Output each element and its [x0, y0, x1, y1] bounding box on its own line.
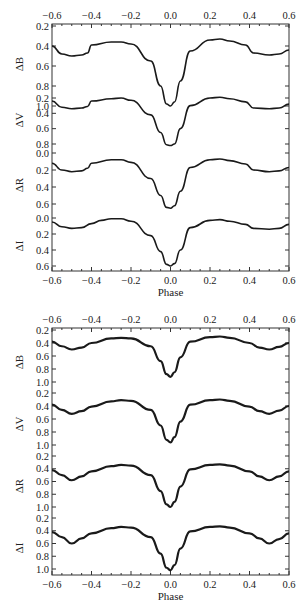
x-tick-label-bottom: −0.6: [42, 275, 61, 286]
x-tick-label-bottom: 0.0: [164, 275, 177, 286]
x-tick-label-bottom: 0.2: [203, 579, 216, 590]
y-tick-label: 1.0: [36, 502, 49, 513]
y-tick-label: 0.6: [36, 61, 49, 72]
x-tick-label-bottom: −0.2: [121, 275, 140, 286]
y-tick-label: 0.8: [36, 81, 49, 92]
y-tick-label: 0.4: [36, 525, 50, 536]
x-tick-label-bottom: −0.2: [121, 579, 140, 590]
x-axis-label: Phase: [158, 590, 184, 602]
y-tick-label: 0.2: [36, 21, 49, 32]
light-curve-delta-V: [52, 97, 289, 145]
y-axis-label-delta-I: ΔI: [13, 240, 25, 251]
light-curve-figure: −0.6−0.6−0.4−0.4−0.2−0.20.00.00.20.20.40…: [0, 0, 308, 610]
y-tick-label: 0.8: [36, 551, 49, 562]
y-axis-label-delta-V: ΔV: [13, 112, 25, 127]
light-curve-delta-I: [52, 219, 289, 266]
x-tick-label-bottom: −0.4: [82, 579, 102, 590]
y-tick-label: 0.0: [36, 148, 49, 159]
x-tick-label-bottom: 0.0: [164, 579, 177, 590]
y-tick-label: 0.2: [36, 388, 49, 399]
y-tick-label: 0.2: [36, 229, 49, 240]
y-axis-label-delta-B: ΔB: [13, 57, 25, 71]
x-tick-label-top: 0.4: [243, 314, 257, 325]
y-tick-label: 0.6: [36, 414, 49, 425]
x-tick-label-top: 0.0: [164, 314, 177, 325]
x-tick-label-top: 0.0: [164, 10, 177, 21]
x-tick-label-top: 0.4: [243, 10, 257, 21]
x-tick-label-bottom: 0.4: [243, 579, 257, 590]
x-tick-label-top: 0.2: [203, 314, 216, 325]
y-axis-label-delta-I: ΔI: [13, 542, 25, 553]
x-tick-label-bottom: −0.6: [42, 579, 61, 590]
x-tick-label-top: −0.2: [121, 314, 140, 325]
y-axis-label-delta-R: ΔR: [13, 478, 25, 493]
y-tick-label: 0.4: [36, 108, 50, 119]
y-tick-label: 0.6: [36, 476, 49, 487]
x-tick-label-bottom: 0.4: [243, 275, 257, 286]
x-tick-label-top: −0.4: [82, 10, 102, 21]
light-curve-delta-B: [52, 337, 289, 377]
panel-1: −0.6−0.6−0.4−0.4−0.2−0.20.00.00.20.20.40…: [13, 10, 296, 298]
x-tick-label-top: −0.2: [121, 10, 140, 21]
plot-frame: [52, 24, 289, 271]
x-tick-label-bottom: 0.6: [282, 275, 295, 286]
panel-2: −0.6−0.6−0.4−0.4−0.2−0.20.00.00.20.20.40…: [13, 314, 296, 602]
y-tick-label: 0.4: [36, 41, 50, 52]
y-tick-label: 0.6: [36, 123, 49, 134]
y-tick-label: 0.6: [36, 261, 49, 272]
y-tick-label: 0.8: [36, 364, 49, 375]
x-tick-label-top: 0.2: [203, 10, 216, 21]
y-tick-label: 0.6: [36, 538, 49, 549]
y-tick-label: 0.4: [36, 245, 50, 256]
x-axis-label: Phase: [158, 286, 184, 298]
x-tick-label-top: −0.6: [42, 10, 61, 21]
y-tick-label: 0.2: [36, 165, 49, 176]
x-tick-label-bottom: −0.4: [82, 275, 102, 286]
y-tick-label: 1.0: [36, 564, 49, 575]
y-tick-label: 0.6: [36, 199, 49, 210]
y-tick-label: 0.8: [36, 427, 49, 438]
y-tick-label: 0.4: [36, 401, 50, 412]
y-tick-label: 0.4: [36, 182, 50, 193]
y-tick-label: 1.0: [36, 377, 49, 388]
y-tick-label: 0.6: [36, 351, 49, 362]
y-tick-label: 0.2: [36, 93, 49, 104]
light-curve-delta-I: [52, 526, 289, 570]
y-tick-label: 0.4: [36, 338, 50, 349]
light-curve-delta-R: [52, 159, 289, 208]
light-curve-delta-R: [52, 464, 289, 507]
y-tick-label: 0.2: [36, 325, 49, 336]
x-tick-label-top: 0.6: [282, 314, 295, 325]
plot-frame: [52, 328, 289, 575]
x-tick-label-bottom: 0.6: [282, 579, 295, 590]
y-axis-label-delta-V: ΔV: [13, 416, 25, 431]
y-axis-label-delta-R: ΔR: [13, 177, 25, 192]
y-tick-label: 0.2: [36, 513, 49, 524]
y-tick-label: 0.2: [36, 451, 49, 462]
y-tick-label: 0.8: [36, 489, 49, 500]
light-curve-delta-B: [52, 39, 289, 106]
light-curve-delta-V: [52, 400, 289, 443]
x-tick-label-top: 0.6: [282, 10, 295, 21]
y-axis-label-delta-B: ΔB: [13, 355, 25, 369]
y-tick-label: 1.0: [36, 440, 49, 451]
x-tick-label-bottom: 0.2: [203, 275, 216, 286]
y-tick-label: 0.0: [36, 213, 49, 224]
y-tick-label: 0.4: [36, 463, 50, 474]
x-tick-label-top: −0.6: [42, 314, 61, 325]
x-tick-label-top: −0.4: [82, 314, 102, 325]
